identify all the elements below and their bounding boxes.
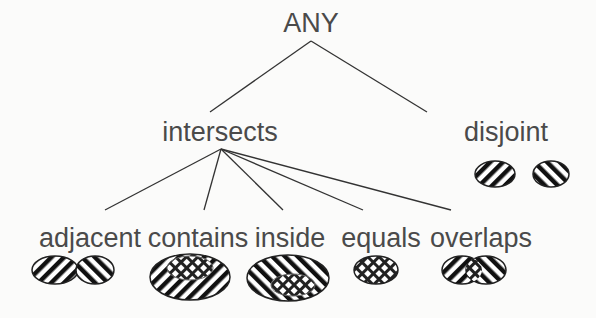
node-adjacent: adjacent xyxy=(39,223,141,253)
node-overlaps: overlaps xyxy=(430,223,532,253)
inside-icon xyxy=(247,255,329,301)
disjoint-icon xyxy=(475,161,569,187)
node-any: ANY xyxy=(283,8,339,38)
node-intersects: intersects xyxy=(162,117,278,147)
diagram-canvas xyxy=(0,0,596,318)
node-inside: inside xyxy=(255,223,326,253)
adjacent-icon xyxy=(32,256,114,284)
overlaps-icon xyxy=(442,256,506,284)
node-equals: equals xyxy=(341,223,421,253)
node-contains: contains xyxy=(148,223,249,253)
tree-edges xyxy=(105,41,451,210)
node-disjoint: disjoint xyxy=(464,117,548,147)
equals-icon xyxy=(354,256,398,284)
contains-icon xyxy=(150,254,230,300)
